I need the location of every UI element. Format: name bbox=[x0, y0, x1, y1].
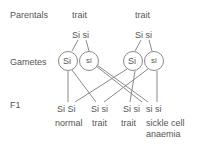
gamete-1: Si bbox=[63, 56, 71, 66]
offspring-4-genotype: si si bbox=[146, 104, 162, 114]
gamete-3: Si bbox=[128, 56, 136, 66]
offspring-1-genotype: Si Si bbox=[57, 104, 76, 114]
offspring-1-phenotype: normal bbox=[55, 118, 83, 128]
parentals-label: Parentals bbox=[10, 10, 48, 20]
parent-1-genotype: Si si bbox=[72, 30, 89, 40]
offspring-4-phenotype-line1: sickle cell bbox=[146, 118, 185, 128]
offspring-3-genotype: Si si bbox=[123, 104, 140, 114]
offspring-3-phenotype: trait bbox=[121, 118, 136, 128]
parent-2-phenotype: trait bbox=[135, 10, 150, 20]
parent-2-genotype: Si si bbox=[135, 30, 152, 40]
gametes-label: Gametes bbox=[10, 57, 47, 67]
offspring-2-genotype: Si si bbox=[91, 104, 108, 114]
gamete-4: si bbox=[151, 56, 157, 66]
offspring-2-phenotype: trait bbox=[92, 118, 107, 128]
offspring-4-phenotype-line2: anaemia bbox=[146, 129, 181, 139]
parent-1-phenotype: trait bbox=[72, 10, 87, 20]
f1-label: F1 bbox=[10, 100, 21, 110]
gamete-2: si bbox=[86, 56, 92, 66]
